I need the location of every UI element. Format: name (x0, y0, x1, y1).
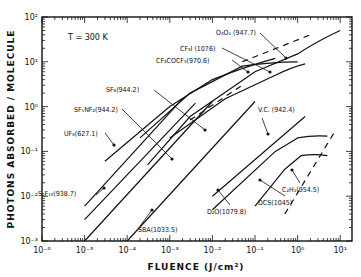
curve-label: CF₃COCF₃(970.6) (156, 57, 209, 65)
leader-arrowhead (150, 208, 153, 211)
curve (212, 117, 305, 197)
y-tick-label: 10² (25, 13, 38, 22)
curve-label: S₂F₁₀(938.7) (38, 190, 76, 198)
curve (85, 102, 213, 242)
leader-line (262, 118, 268, 134)
temperature-annotation: T = 300 K (67, 33, 108, 42)
leader-arrowhead (246, 70, 249, 73)
curve (170, 64, 305, 138)
curve-label: C₂H₄(954.5) (282, 186, 319, 194)
x-tick-label: 10⁻¹ (246, 246, 264, 255)
leader-arrowhead (112, 143, 115, 146)
leader-arrowhead (268, 70, 271, 73)
curve-label: SBA(1033.5) (138, 226, 178, 234)
x-tick-label: 10⁻⁵ (76, 246, 94, 255)
leader-line (105, 133, 114, 145)
curve-label: UF₆(627.1) (64, 130, 98, 138)
leader-arrowhead (203, 128, 206, 131)
y-tick-label: 10⁻² (20, 192, 38, 201)
y-tick-label: 10⁻³ (20, 237, 38, 246)
curve-label: V.C. (942.4) (258, 106, 295, 114)
y-tick-label: 10⁰ (25, 103, 38, 112)
curve-label: O₃O₄ (947.7) (216, 29, 256, 37)
y-tick-label: 10¹ (25, 58, 38, 67)
leader-line (260, 33, 286, 58)
curve-label: CF₃I (1076) (180, 45, 215, 53)
leader-arrowhead (216, 188, 219, 191)
curve-label: D₂O(1079.8) (207, 208, 246, 216)
leader-arrowhead (170, 157, 173, 160)
leader-arrowhead (284, 56, 287, 59)
curve-label: DCS(1045) (258, 199, 292, 207)
leader-arrowhead (258, 178, 261, 181)
x-tick-label: 10⁰ (291, 246, 304, 255)
leader-line (154, 90, 205, 130)
y-tick-label: 10⁻¹ (20, 147, 38, 156)
curve-label: SF₅NF₂(944.2) (74, 106, 118, 114)
x-axis-title: FLUENCE (J/cm²) (148, 262, 245, 272)
curve (85, 103, 196, 220)
curve (105, 58, 275, 161)
leader-arrowhead (290, 168, 293, 171)
curve (85, 99, 183, 206)
chart: 10⁻⁶10⁻⁵10⁻⁴10⁻³10⁻²10⁻¹10⁰10¹10⁻³10⁻²10… (0, 0, 361, 277)
leader-line (140, 210, 152, 226)
x-tick-label: 10⁻⁶ (33, 246, 51, 255)
y-axis-title: PHOTONS ABSORBED / MOLECULE (6, 30, 16, 229)
x-tick-label: 10⁻² (204, 246, 222, 255)
leader-line (222, 48, 270, 72)
leader-line (292, 170, 300, 183)
x-tick-label: 10¹ (334, 246, 347, 255)
leader-arrowhead (266, 132, 269, 135)
leader-arrowhead (102, 186, 105, 189)
curve-label: SF₆(944.2) (106, 86, 139, 94)
x-tick-label: 10⁻⁴ (118, 246, 136, 255)
curve (190, 85, 242, 120)
curve (148, 31, 341, 165)
curve (140, 62, 298, 138)
x-tick-label: 10⁻³ (161, 246, 179, 255)
